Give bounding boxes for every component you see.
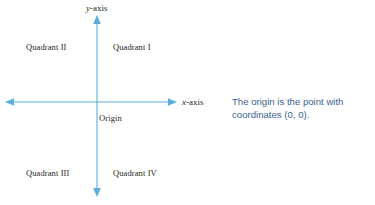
y-axis-label-suffix: -axis (90, 3, 108, 13)
quadrant-3-label: Quadrant III (26, 168, 69, 178)
x-axis-left-arrowhead (5, 98, 14, 106)
quadrant-4-label: Quadrant IV (113, 168, 157, 178)
origin-callout-text: The origin is the point with coordinates… (232, 96, 364, 121)
y-axis-label: y-axis (86, 3, 108, 13)
y-axis-top-arrowhead (93, 15, 101, 24)
quadrant-1-label: Quadrant I (113, 42, 151, 52)
x-axis-label-suffix: -axis (186, 97, 204, 107)
x-axis-right-arrowhead (168, 98, 177, 106)
quadrant-2-label: Quadrant II (26, 42, 67, 52)
coordinate-plane-figure: y-axis x-axis Quadrant II Quadrant I Qua… (0, 0, 375, 205)
origin-label: Origin (99, 113, 122, 123)
y-axis-bottom-arrowhead (93, 188, 101, 197)
x-axis-label: x-axis (182, 97, 204, 107)
